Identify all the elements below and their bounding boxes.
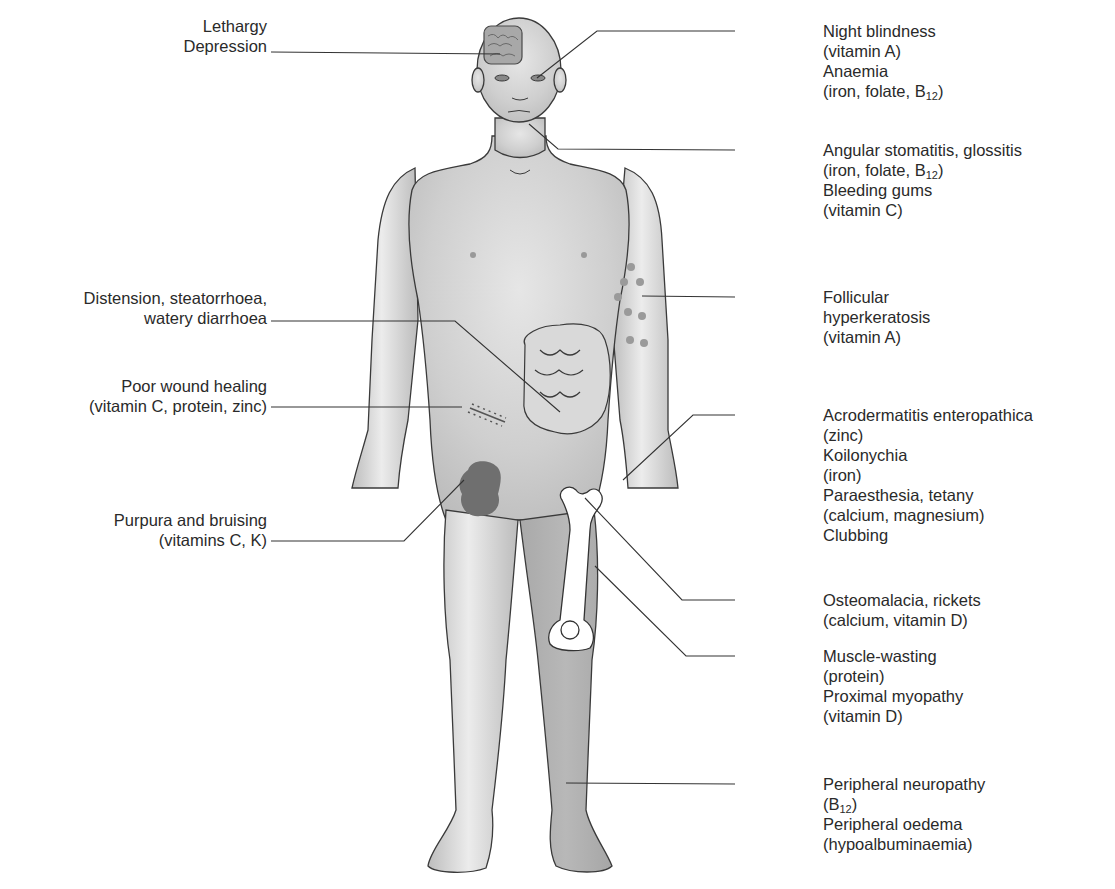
label-follicular: Follicular hyperkeratosis (vitamin A) bbox=[823, 287, 930, 347]
torso bbox=[409, 136, 629, 520]
leader-bruise bbox=[271, 480, 464, 541]
label-angular-stomatitis: Angular stomatitis, glossitis (iron, fol… bbox=[823, 140, 1022, 220]
leader-leg bbox=[566, 783, 735, 784]
deficiency-diagram: Lethargy Depression Distension, steatorr… bbox=[0, 0, 1115, 889]
label-lethargy: Lethargy Depression bbox=[184, 16, 267, 56]
right-leg bbox=[428, 510, 518, 872]
leader-brain bbox=[271, 52, 500, 54]
label-osteomalacia: Osteomalacia, rickets (calcium, vitamin … bbox=[823, 590, 981, 630]
right-arm bbox=[352, 168, 418, 488]
neck bbox=[495, 118, 545, 158]
label-wound-healing: Poor wound healing (vitamin C, protein, … bbox=[89, 376, 267, 416]
label-distension: Distension, steatorrhoea, watery diarrho… bbox=[84, 288, 267, 328]
brain-icon bbox=[484, 26, 522, 64]
intestines-icon bbox=[524, 324, 610, 434]
leader-mouth bbox=[529, 124, 735, 150]
leader-eyes bbox=[537, 31, 735, 78]
label-purpura: Purpura and bruising (vitamins C, K) bbox=[114, 510, 267, 550]
leader-bone bbox=[585, 498, 735, 600]
ear-right bbox=[472, 68, 484, 92]
body-silhouette bbox=[352, 18, 678, 872]
leader-muscle bbox=[595, 566, 735, 656]
label-muscle-wasting: Muscle-wasting (protein) Proximal myopat… bbox=[823, 646, 963, 726]
ear-left bbox=[554, 68, 566, 92]
label-peripheral-neuropathy: Peripheral neuropathy (B12) Peripheral o… bbox=[823, 774, 985, 854]
label-night-blindness: Night blindness (vitamin A) Anaemia (iro… bbox=[823, 21, 943, 101]
label-acrodermatitis: Acrodermatitis enteropathica (zinc) Koil… bbox=[823, 405, 1033, 545]
